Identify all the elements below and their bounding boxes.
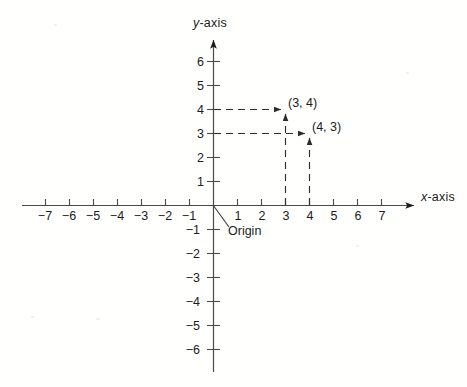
y-axis-suffix: -axis <box>199 16 226 30</box>
axes-graphic <box>0 0 467 387</box>
coordinate-plane-figure: y-axis x-axis −7 −6 −5 −4 −3 −2 −1 1 2 3… <box>0 0 467 387</box>
x-tick-label: −4 <box>107 209 127 223</box>
y-tick-label: 4 <box>182 103 204 117</box>
y-tick-label: 6 <box>182 55 204 69</box>
scan-speck <box>406 72 409 74</box>
scan-speck <box>356 245 359 247</box>
scan-speck <box>96 318 100 320</box>
y-tick-label: −3 <box>178 271 200 285</box>
y-tick-label: 3 <box>182 127 204 141</box>
x-tick-label: 5 <box>324 209 344 223</box>
point-label-3-4: (3, 4) <box>288 96 317 110</box>
x-tick-label: −7 <box>35 209 55 223</box>
y-tick-label: −2 <box>178 247 200 261</box>
x-axis-title: x-axis <box>421 190 455 204</box>
y-tick-label: −6 <box>178 343 200 357</box>
scan-speck <box>54 24 57 26</box>
x-tick-label: −5 <box>83 209 103 223</box>
y-tick-label: −4 <box>178 295 200 309</box>
x-tick-label: 1 <box>228 209 248 223</box>
y-tick-label: −1 <box>178 223 200 237</box>
x-tick-label: 2 <box>252 209 272 223</box>
x-tick-label: −6 <box>59 209 79 223</box>
x-tick-label: −3 <box>131 209 151 223</box>
y-tick-label: 1 <box>182 175 204 189</box>
origin-label: Origin <box>228 224 261 238</box>
x-tick-label: −1 <box>179 209 199 223</box>
origin-leader-line <box>213 205 229 227</box>
guide-lines-point-1 <box>214 110 286 206</box>
y-axis-title: y-axis <box>193 16 227 30</box>
y-tick-label: 2 <box>182 151 204 165</box>
x-tick-label: 6 <box>348 209 368 223</box>
x-tick-label: 3 <box>276 209 296 223</box>
x-tick-label: 7 <box>372 209 392 223</box>
y-tick-label: −5 <box>178 319 200 333</box>
x-tick-label: −2 <box>155 209 175 223</box>
x-tick-label: 4 <box>300 209 320 223</box>
axis-lines <box>22 40 414 372</box>
guide-lines-point-2 <box>214 134 310 206</box>
x-axis-suffix: -axis <box>427 190 454 204</box>
scan-speck <box>31 316 34 318</box>
point-label-4-3: (4, 3) <box>312 120 341 134</box>
y-tick-label: 5 <box>182 79 204 93</box>
